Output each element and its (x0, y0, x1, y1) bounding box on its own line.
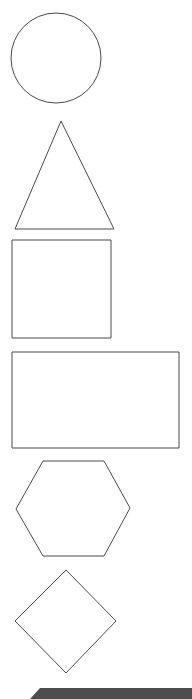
shapes-canvas (0, 0, 192, 699)
bottom-bar[interactable] (30, 688, 192, 699)
circle-shape[interactable] (11, 13, 101, 103)
shapes-canvas-root (0, 0, 192, 699)
square-shape[interactable] (12, 240, 111, 338)
rectangle-shape[interactable] (12, 352, 179, 448)
canvas-background (0, 0, 192, 699)
